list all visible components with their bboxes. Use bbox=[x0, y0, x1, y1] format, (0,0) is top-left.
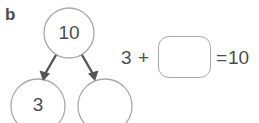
number-bond-worksheet: b 10 3 3 + = 10 bbox=[0, 0, 259, 123]
equation-plus-sign: + bbox=[138, 48, 149, 67]
part-circle-left-value: 3 bbox=[13, 95, 63, 114]
arrow-down-right-icon bbox=[82, 55, 99, 81]
exercise-part-label: b bbox=[5, 4, 25, 26]
whole-circle-value: 10 bbox=[44, 23, 94, 42]
equation-sum: 10 bbox=[228, 48, 249, 67]
equation-addend: 3 bbox=[121, 48, 132, 67]
equation-answer-box[interactable] bbox=[158, 36, 211, 78]
arrow-down-left-icon bbox=[40, 55, 57, 81]
equation-equals-sign: = bbox=[216, 48, 227, 67]
part-circle-right[interactable] bbox=[78, 79, 132, 123]
